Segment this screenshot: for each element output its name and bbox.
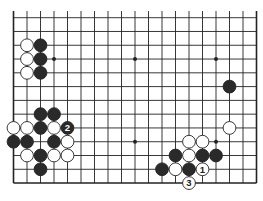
star-point bbox=[133, 57, 137, 61]
go-board: 213 bbox=[0, 0, 263, 201]
white-stone bbox=[61, 135, 74, 148]
star-point bbox=[133, 140, 137, 144]
star-point bbox=[52, 57, 56, 61]
black-stone: 2 bbox=[61, 122, 74, 135]
black-stone bbox=[223, 80, 236, 93]
black-stone bbox=[34, 39, 47, 52]
black-stone bbox=[169, 149, 182, 162]
black-stone bbox=[183, 163, 196, 176]
black-stone bbox=[34, 108, 47, 121]
black-stone bbox=[196, 149, 209, 162]
black-stone bbox=[7, 135, 20, 148]
black-stone bbox=[34, 149, 47, 162]
white-stone bbox=[196, 135, 209, 148]
white-stone bbox=[48, 149, 61, 162]
white-stone bbox=[21, 149, 34, 162]
white-stone bbox=[183, 135, 196, 148]
black-stone bbox=[48, 135, 61, 148]
black-stone bbox=[34, 53, 47, 66]
white-stone bbox=[61, 149, 74, 162]
star-point bbox=[214, 140, 218, 144]
move-number-label: 1 bbox=[200, 164, 206, 175]
black-stone bbox=[34, 163, 47, 176]
white-stone bbox=[223, 122, 236, 135]
white-stone bbox=[21, 122, 34, 135]
white-stone bbox=[48, 122, 61, 135]
black-stone bbox=[156, 163, 169, 176]
black-stone bbox=[21, 135, 34, 148]
white-stone bbox=[7, 122, 20, 135]
white-stone bbox=[169, 163, 182, 176]
white-stone: 1 bbox=[196, 163, 209, 176]
white-stone bbox=[21, 53, 34, 66]
star-point bbox=[214, 57, 218, 61]
white-stone bbox=[21, 39, 34, 52]
black-stone bbox=[34, 122, 47, 135]
white-stone: 3 bbox=[183, 177, 196, 190]
black-stone bbox=[34, 66, 47, 79]
white-stone bbox=[183, 149, 196, 162]
move-number-label: 3 bbox=[186, 177, 191, 188]
black-stone bbox=[210, 149, 223, 162]
white-stone bbox=[21, 66, 34, 79]
move-number-label: 2 bbox=[65, 122, 70, 133]
black-stone bbox=[48, 108, 61, 121]
